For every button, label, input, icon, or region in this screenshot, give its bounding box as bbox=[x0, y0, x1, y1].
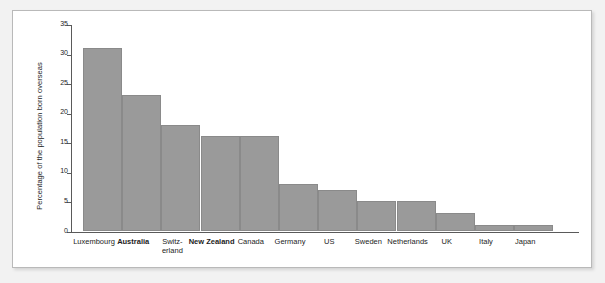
category-label-line: Japan bbox=[497, 237, 553, 246]
x-axis-category-label: Australia bbox=[105, 237, 161, 246]
x-axis-category-label: Japan bbox=[497, 237, 553, 246]
y-axis-tick-label: 5 bbox=[64, 197, 68, 204]
y-axis-tick-label: 20 bbox=[60, 108, 68, 115]
y-axis-title: Percentage of the population born overse… bbox=[33, 41, 47, 231]
y-axis-tick-label: 25 bbox=[60, 79, 68, 86]
bar bbox=[397, 201, 436, 231]
bar bbox=[201, 136, 240, 231]
bar bbox=[514, 225, 553, 231]
bar bbox=[436, 213, 475, 231]
x-axis-category-labels: LuxembourgAustraliaSwitz-erlandNew Zeala… bbox=[71, 237, 579, 265]
category-label-line: Australia bbox=[105, 237, 161, 246]
plot-area: 35302520151050 bbox=[71, 25, 579, 232]
y-axis-tick-label: 30 bbox=[60, 49, 68, 56]
y-axis-line bbox=[71, 25, 72, 233]
bar bbox=[161, 125, 200, 231]
y-axis-tick-label: 15 bbox=[60, 138, 68, 145]
bar bbox=[475, 225, 514, 231]
y-axis-tick-label: 10 bbox=[60, 167, 68, 174]
bar bbox=[240, 136, 279, 231]
bar bbox=[279, 184, 318, 231]
chart-frame: Percentage of the population born overse… bbox=[12, 10, 592, 268]
bar bbox=[357, 201, 396, 231]
y-axis-tick-label: 35 bbox=[60, 20, 68, 27]
bar bbox=[122, 95, 161, 231]
x-axis-line bbox=[71, 232, 579, 233]
y-axis-tick-label: 0 bbox=[64, 227, 68, 234]
bar bbox=[83, 48, 122, 231]
category-label-line: erland bbox=[157, 246, 187, 255]
bar bbox=[318, 190, 357, 231]
